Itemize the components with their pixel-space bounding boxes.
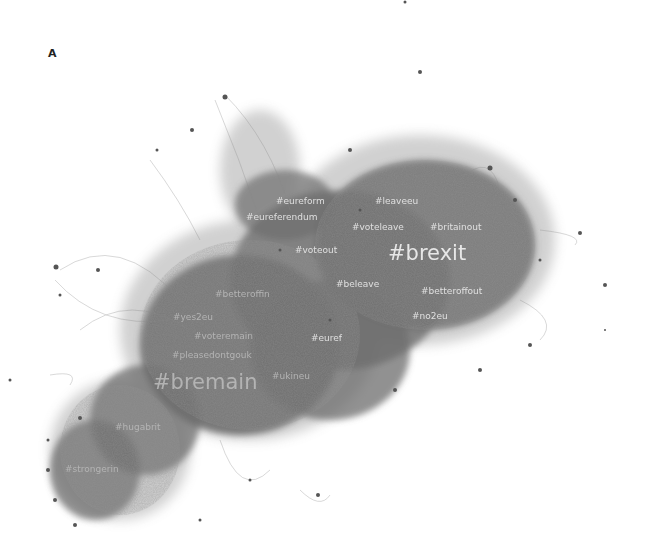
label-strongerin: #strongerin: [65, 464, 119, 474]
label-brexit: #brexit: [388, 241, 466, 265]
label-bremain: #bremain: [153, 370, 258, 394]
label-voteleave: #voteleave: [352, 222, 404, 232]
label-eureform: #eureform: [276, 196, 325, 206]
label-ukineu: #ukineu: [272, 371, 310, 381]
label-pleasedontgouk: #pleasedontgouk: [172, 350, 252, 360]
label-eureferendum: #eureferendum: [246, 212, 317, 222]
label-hugabrit: #hugabrit: [115, 422, 161, 432]
label-leaveeu: #leaveeu: [375, 196, 418, 206]
label-voteout: #voteout: [295, 245, 337, 255]
label-beleave: #beleave: [336, 279, 379, 289]
label-yes2eu: #yes2eu: [173, 312, 213, 322]
label-no2eu: #no2eu: [412, 311, 448, 321]
label-britainout: #britainout: [430, 222, 481, 232]
label-betteroffout: #betteroffout: [421, 286, 482, 296]
label-betteroffin: #betteroffin: [215, 289, 270, 299]
label-voteremain: #voteremain: [194, 331, 253, 341]
label-euref: #euref: [311, 333, 342, 343]
